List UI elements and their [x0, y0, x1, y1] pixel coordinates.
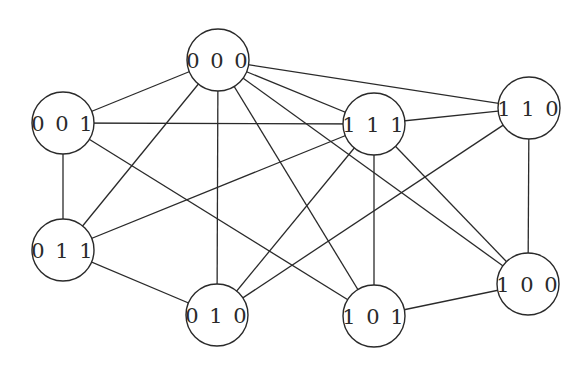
- node-011: 0 1 1: [31, 219, 94, 281]
- edge-111-011: [63, 124, 374, 250]
- node-100: 1 0 0: [496, 253, 559, 315]
- node-label: 0 0 0: [186, 49, 249, 73]
- edge-000-101: [218, 60, 374, 316]
- node-000: 0 0 0: [186, 29, 249, 91]
- node-110: 1 1 0: [497, 77, 560, 139]
- edge-000-011: [63, 60, 218, 250]
- node-label: 1 0 1: [342, 305, 405, 329]
- node-label: 0 1 0: [185, 304, 248, 328]
- edge-111-010: [217, 124, 374, 315]
- graph-diagram: 0 0 00 0 11 1 11 1 00 1 10 1 01 0 11 0 0: [0, 0, 582, 367]
- edge-111-100: [374, 124, 528, 284]
- node-111: 1 1 1: [342, 93, 405, 155]
- edge-001-111: [63, 123, 374, 124]
- node-label: 1 1 1: [342, 113, 405, 137]
- edges-layer: [63, 60, 529, 316]
- node-label: 0 1 1: [31, 239, 94, 263]
- node-101: 1 0 1: [342, 285, 405, 347]
- node-label: 1 0 0: [496, 273, 559, 297]
- node-010: 0 1 0: [185, 284, 248, 346]
- node-001: 0 0 1: [31, 92, 94, 154]
- node-label: 0 0 1: [31, 112, 94, 136]
- node-label: 1 1 0: [497, 97, 560, 121]
